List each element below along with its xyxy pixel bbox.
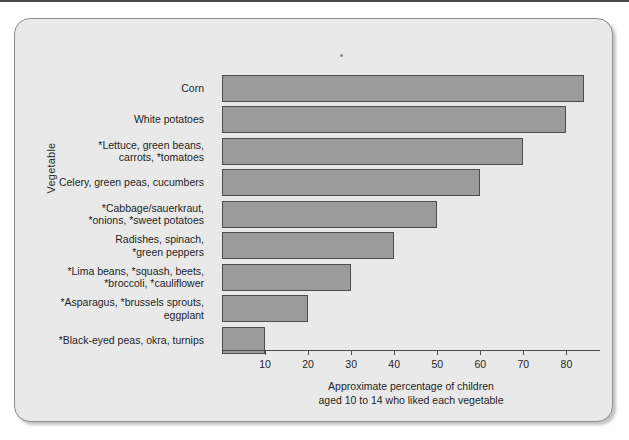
bar [222,169,480,196]
bar [222,264,351,291]
bar-row: Radishes, spinach, *green peppers [15,230,612,262]
bar [222,232,394,259]
x-axis-line [222,350,600,351]
x-axis-tick [523,350,524,355]
x-axis-tick [265,350,266,355]
bar-category-label: *Lettuce, green beans, carrots, *tomatoe… [15,138,204,163]
x-axis-tick-label: 50 [422,358,452,370]
x-axis-tick-label: 10 [250,358,280,370]
bar-row: White potatoes [15,104,612,136]
bar [222,295,308,322]
plot-surface: Vegetable CornWhite potatoes*Lettuce, gr… [15,19,612,421]
x-axis-tick-label: 30 [336,358,366,370]
x-axis-tick-label: 70 [508,358,538,370]
bar [222,106,566,133]
bar-category-label: White potatoes [15,113,204,126]
bar-category-label: *Cabbage/sauerkraut, *onions, *sweet pot… [15,201,204,226]
bar-row: Celery, green peas, cucumbers [15,167,612,199]
x-axis-tick-label: 20 [293,358,323,370]
x-axis-tick [351,350,352,355]
bar-category-label: Celery, green peas, cucumbers [15,176,204,189]
x-axis-tick [437,350,438,355]
bar-row: *Lettuce, green beans, carrots, *tomatoe… [15,135,612,167]
bar-category-label: *Asparagus, *brussels sprouts, eggplant [15,296,204,321]
x-axis-tick [480,350,481,355]
bar [222,75,584,102]
page-top-rule [0,0,629,2]
figure-frame: Vegetable CornWhite potatoes*Lettuce, gr… [14,18,613,422]
x-axis-title: Approximate percentage of children aged … [222,380,600,407]
bar-row: *Asparagus, *brussels sprouts, eggplant [15,293,612,325]
bar-category-label: Corn [15,82,204,95]
bar-category-label: Radishes, spinach, *green peppers [15,233,204,258]
x-axis-tick-label: 40 [379,358,409,370]
x-axis-tick [394,350,395,355]
bar [222,138,523,165]
x-axis-tick [308,350,309,355]
bar-row: *Cabbage/sauerkraut, *onions, *sweet pot… [15,198,612,230]
bar-category-label: *Black-eyed peas, okra, turnips [15,334,204,347]
x-axis-tick [566,350,567,355]
x-axis-tick-label: 60 [465,358,495,370]
bar-row: *Lima beans, *squash, beets, *broccoli, … [15,261,612,293]
x-axis-tick-label: 80 [551,358,581,370]
bar [222,201,437,228]
bar-row: Corn [15,72,612,104]
bar-category-label: *Lima beans, *squash, beets, *broccoli, … [15,264,204,289]
